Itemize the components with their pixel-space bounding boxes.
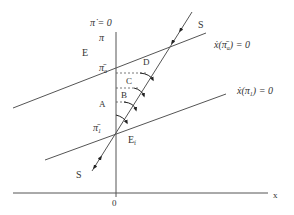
- upper-nullcline-label: ẋ(π̄a) = 0: [213, 39, 250, 51]
- adjust-arrow-a: [116, 115, 127, 123]
- pi-dot-zero-label: π̇ = 0: [90, 17, 112, 28]
- saddle-label-top: S: [198, 19, 204, 30]
- region-d-label: D: [143, 57, 150, 67]
- saddle-arrow-top-1: [180, 28, 182, 31]
- pi-a-label: π̄a: [99, 62, 107, 74]
- region-e-label: E: [82, 47, 88, 58]
- phase-diagram: π̇ = 0 π E π̄a D C B A π̄1 Ef S S ẋ(π̄a)…: [0, 0, 294, 215]
- saddle-path: [92, 12, 192, 171]
- region-b-label: B: [121, 90, 127, 100]
- x-axis-label: x: [273, 190, 278, 200]
- upper-nullcline: [13, 33, 206, 108]
- adjust-arrow-c: [134, 88, 144, 96]
- saddle-label-bottom: S: [76, 169, 82, 180]
- origin-label: 0: [112, 198, 117, 208]
- lower-nullcline: [45, 94, 226, 160]
- lower-nullcline-label: ẋ(π1) = 0: [236, 85, 273, 97]
- region-a-label: A: [99, 99, 106, 109]
- pi-label: π: [99, 32, 105, 43]
- region-c-label: C: [126, 76, 132, 86]
- pi-1-label: π̄1: [93, 122, 101, 134]
- equilibrium-label: Ef: [128, 134, 136, 146]
